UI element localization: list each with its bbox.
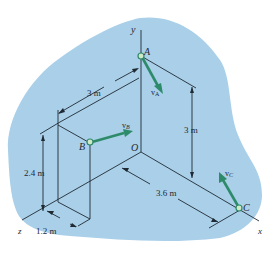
- dim-left-height: 2.4 m: [24, 168, 45, 178]
- dim-right-height: 3 m: [184, 125, 198, 135]
- background-blob: [8, 17, 262, 241]
- dim-x-offset: 3.6 m: [156, 188, 177, 198]
- z-axis-label: z: [17, 226, 22, 236]
- point-C-label: C: [243, 202, 250, 213]
- dim-z-depth: 1.2 m: [36, 226, 57, 236]
- origin-label: O: [131, 142, 138, 153]
- dim-top-width: 3 m: [87, 88, 101, 98]
- point-B-label: B: [79, 141, 85, 152]
- point-A-label: A: [143, 46, 151, 57]
- point-B: [87, 139, 93, 145]
- x-axis-label: x: [257, 226, 262, 236]
- point-C: [236, 205, 242, 211]
- kinematics-diagram: y x z O A B C vA vB vC 3 m 3 m 2.4 m 3.6…: [0, 0, 277, 254]
- y-axis-label: y: [130, 24, 136, 35]
